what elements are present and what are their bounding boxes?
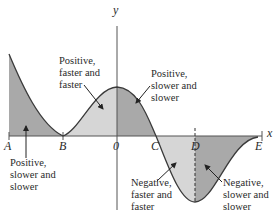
- annotation-negative-faster: Negative, faster and faster: [131, 177, 172, 213]
- point-d-label: D: [191, 139, 200, 154]
- annotation-positive-faster: Positive, faster and faster: [59, 55, 100, 91]
- origin-label: 0: [113, 139, 119, 154]
- annotation-negative-slower: Negative, slower and slower: [223, 177, 269, 213]
- x-axis-label: x: [267, 126, 272, 141]
- point-b-label: B: [59, 139, 66, 154]
- point-a-label: A: [4, 139, 11, 154]
- annotation-positive-slower-right: Positive, slower and slower: [151, 68, 197, 104]
- arrow-positive-slower-right: [136, 86, 150, 103]
- annotation-positive-slower-left: Positive, slower and slower: [10, 157, 56, 193]
- region-a-b-dark: [9, 54, 63, 136]
- point-e-label: E: [255, 139, 262, 154]
- y-axis-label: y: [113, 3, 118, 18]
- region-b-0-light: [63, 87, 117, 136]
- point-c-label: C: [151, 139, 159, 154]
